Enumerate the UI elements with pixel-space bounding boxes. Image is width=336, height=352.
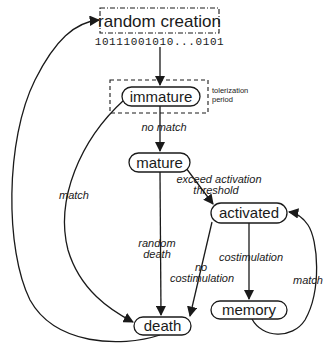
mature-label: mature [136,154,183,171]
bitstring-label: 10111001010...0101 [95,36,225,48]
label-match-left: match [59,189,89,201]
death-label: death [144,317,182,334]
state-diagram: random creation 10111001010...0101 immat… [0,0,336,352]
label-threshold: threshold [193,184,239,196]
activated-label: activated [219,204,279,221]
node-mature: mature [129,153,190,172]
label-no-match: no match [141,121,186,133]
tolerization-label: tolerization [212,86,248,95]
immature-label: immature [130,88,193,105]
edge-immature-to-death [65,100,133,322]
label-death: death [143,248,171,260]
label-match-right: match [293,274,323,286]
period-label: period [212,95,233,104]
node-activated: activated [211,203,287,223]
label-costimulation-neg: costimulation [170,272,234,284]
node-death: death [134,317,191,335]
memory-label: memory [222,301,277,318]
node-random-creation: random creation 10111001010...0101 [95,8,225,48]
label-costimulation: costimulation [219,251,283,263]
node-memory: memory [211,301,287,319]
random-creation-label: random creation [98,12,221,31]
edge-death-to-creation [12,20,160,342]
node-immature: immature tolerization period [110,80,248,113]
